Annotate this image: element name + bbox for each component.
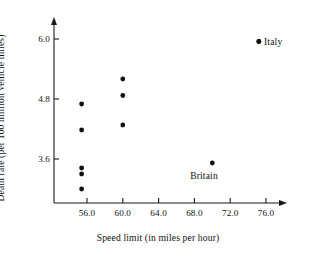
x-axis-tick-label: 60.0: [115, 208, 131, 218]
y-axis-tick-label: 3.6: [28, 154, 50, 164]
data-point: [120, 93, 125, 98]
data-point: [79, 166, 84, 171]
x-axis-arrow-icon: [279, 200, 287, 206]
x-axis-tick-label: 72.0: [222, 208, 238, 218]
y-axis-ticks: [54, 39, 59, 159]
axes-group: [51, 17, 287, 206]
scatter-plot-figure: 56.060.064.068.072.076.0 3.64.86.0 Speed…: [0, 0, 315, 260]
x-axis-tick-label: 64.0: [150, 208, 166, 218]
x-axis-ticks: [87, 198, 266, 203]
x-axis-tick-label: 68.0: [186, 208, 202, 218]
y-axis-title: Death rate (per 100 million vehicle mile…: [0, 18, 6, 218]
data-point: [79, 187, 84, 192]
data-point: [120, 77, 125, 82]
y-axis-tick-label: 4.8: [28, 94, 50, 104]
x-axis-tick-label: 76.0: [258, 208, 274, 218]
annotation-britain: Britain: [190, 170, 218, 181]
y-axis-tick-label: 6.0: [28, 34, 50, 44]
data-point: [79, 102, 84, 107]
data-point-britain: [210, 161, 215, 166]
y-axis-arrow-icon: [51, 17, 57, 25]
data-points-group: [79, 39, 261, 191]
annotation-marker-italy: [256, 39, 261, 44]
annotation-italy: Italy: [264, 36, 282, 47]
data-point: [120, 123, 125, 128]
data-point: [79, 172, 84, 177]
x-axis-tick-label: 56.0: [79, 208, 95, 218]
x-axis-title: Speed limit (in miles per hour): [97, 232, 220, 243]
data-point: [79, 128, 84, 133]
